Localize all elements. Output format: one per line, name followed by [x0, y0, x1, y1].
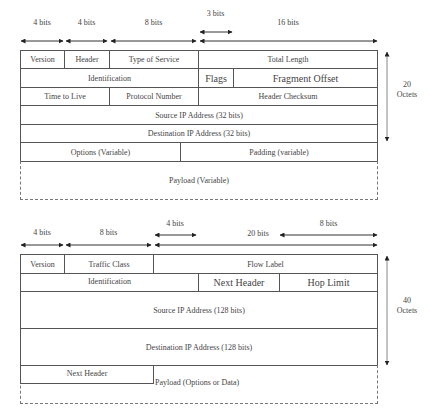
- dimension-arrows: [0, 0, 430, 411]
